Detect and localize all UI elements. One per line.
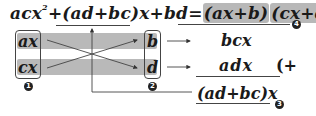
plus-annotation: (+ — [276, 56, 297, 75]
step-3-badge: 3 — [275, 100, 284, 109]
sum-line — [196, 76, 280, 77]
product-bcx: bcx — [221, 31, 251, 50]
sum-term: (ad+bc)x — [197, 84, 278, 103]
sum-underline — [196, 103, 270, 104]
product-adx: adx — [219, 56, 253, 75]
